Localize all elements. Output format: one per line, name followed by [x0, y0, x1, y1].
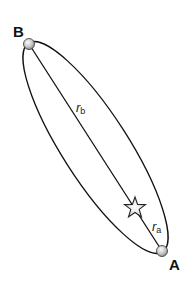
ra-subscript: a: [156, 225, 161, 235]
major-axis-line: [29, 44, 162, 251]
ra-label: ra: [152, 219, 161, 235]
orbit-diagram: B A rb ra: [0, 0, 185, 285]
rb-label: rb: [76, 100, 85, 116]
point-b-label: B: [13, 23, 24, 40]
star-icon: [125, 197, 146, 217]
rb-subscript: b: [80, 106, 85, 116]
planet-at-b: [24, 39, 35, 50]
point-a-label: A: [169, 256, 180, 273]
planet-at-a: [157, 246, 168, 257]
